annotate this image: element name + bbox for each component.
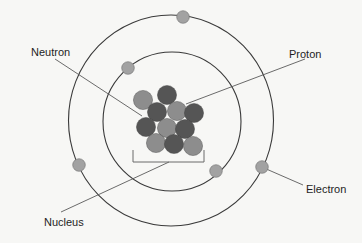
- proton-particle: [167, 101, 186, 120]
- electron-particle: [210, 165, 223, 178]
- atom-illustration: [0, 0, 362, 243]
- electron-label: Electron: [306, 183, 346, 195]
- nucleus: [133, 85, 203, 155]
- atom-diagram: Neutron Proton Nucleus Electron: [0, 0, 362, 243]
- electron-particle: [73, 159, 86, 172]
- neutron-label: Neutron: [31, 46, 70, 58]
- electron-particle: [122, 62, 135, 75]
- neutron-particle: [157, 85, 176, 104]
- nucleus-label: Nucleus: [44, 216, 84, 228]
- electron-pointer-line: [264, 168, 303, 185]
- electron-particle: [256, 161, 269, 174]
- proton-pointer-line: [186, 59, 305, 104]
- proton-particle: [183, 136, 202, 155]
- proton-particle: [146, 133, 165, 152]
- electron-particle: [177, 11, 190, 24]
- neutron-particle: [164, 134, 183, 153]
- proton-label: Proton: [289, 48, 321, 60]
- neutron-particle: [136, 117, 155, 136]
